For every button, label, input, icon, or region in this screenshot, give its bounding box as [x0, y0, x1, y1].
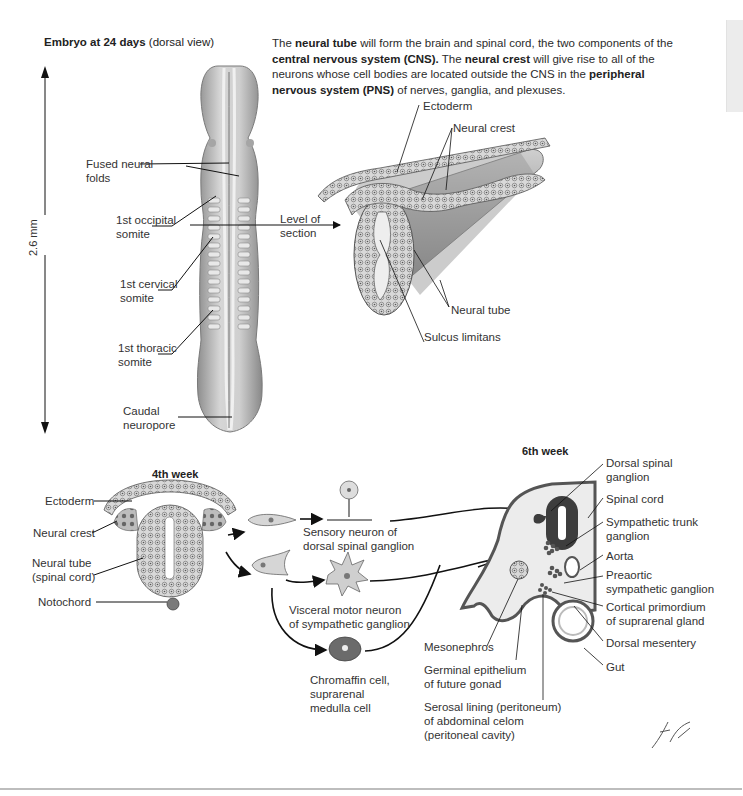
label-dorsal-spinal-ganglion: Dorsal spinalganglion: [606, 456, 672, 484]
label-line: dorsal spinal ganglion: [303, 540, 414, 552]
label-neural-tube-section: Neural tube: [451, 303, 510, 317]
label-aorta: Aorta: [606, 549, 634, 563]
label-line: Cortical primordium: [606, 601, 706, 613]
label-cortical-primordium: Cortical primordiumof suprarenal gland: [606, 600, 706, 628]
label-line: folds: [86, 172, 110, 184]
label-neural-tube-week4: Neural tube(spinal cord): [32, 556, 95, 584]
label-line: of future gonad: [424, 678, 501, 690]
label-line: Caudal: [123, 405, 159, 417]
embryo-dorsal-view: [197, 66, 262, 432]
label-line: of abdominal celom: [424, 715, 524, 727]
label-line: (spinal cord): [32, 571, 95, 583]
week6-title: 6th week: [522, 445, 568, 457]
label-line: ganglion: [606, 471, 649, 483]
label-1st-occipital-somite: 1st occipitalsomite: [116, 213, 176, 241]
label-ectoderm-week4: Ectoderm: [45, 494, 94, 508]
label-mesonephros: Mesonephros: [424, 640, 494, 654]
scale-arrow: [39, 66, 51, 434]
label-serosal-lining: Serosal lining (peritoneum)of abdominal …: [424, 700, 561, 742]
label-visceral-motor-neuron: Visceral motor neuronof sympathetic gang…: [289, 603, 410, 631]
label-line: of sympathetic ganglion: [289, 618, 410, 630]
label-ectoderm-section: Ectoderm: [423, 99, 472, 113]
label-gut: Gut: [606, 660, 625, 674]
artist-signature: [652, 722, 690, 748]
scale-label: 2.6 mm: [27, 219, 39, 256]
label-sensory-neuron: Sensory neuron ofdorsal spinal ganglion: [303, 525, 414, 553]
label-line: (peritoneal cavity): [424, 729, 515, 741]
neural-crest-derivatives: [248, 481, 372, 661]
label-line: Dorsal spinal: [606, 457, 672, 469]
label-line: somite: [120, 292, 154, 304]
label-preaortic-sympathetic-ganglion: Preaorticsympathetic ganglion: [606, 568, 714, 596]
label-line: somite: [116, 228, 150, 240]
label-line: section: [280, 227, 316, 239]
label-line: of suprarenal gland: [606, 615, 704, 627]
label-line: Chromaffin cell,: [310, 674, 390, 686]
label-line: sympathetic ganglion: [606, 583, 714, 595]
neural-tube-section: [318, 138, 550, 315]
label-line: 1st cervical: [120, 278, 178, 290]
label-spinal-cord: Spinal cord: [606, 492, 664, 506]
label-dorsal-mesentery: Dorsal mesentery: [606, 636, 696, 650]
label-fused-neural-folds: Fused neuralfolds: [86, 157, 153, 185]
label-line: Sympathetic trunk: [606, 516, 698, 528]
label-line: 1st occipital: [116, 214, 176, 226]
label-sulcus-limitans: Sulcus limitans: [424, 330, 501, 344]
week4-cross-section: [104, 480, 236, 610]
label-line: Fused neural: [86, 158, 153, 170]
label-sympathetic-trunk-ganglion: Sympathetic trunkganglion: [606, 515, 698, 543]
label-line: Serosal lining (peritoneum): [424, 701, 561, 713]
label-line: medulla cell: [310, 702, 371, 714]
label-caudal-neuropore: Caudalneuropore: [123, 404, 175, 432]
label-line: Neural tube: [32, 557, 91, 569]
label-1st-thoracic-somite: 1st thoracicsomite: [118, 341, 177, 369]
label-neural-crest-section: Neural crest: [453, 121, 515, 135]
label-line: Visceral motor neuron: [289, 604, 401, 616]
label-line: Germinal epithelium: [424, 664, 526, 676]
week4-title: 4th week: [152, 468, 198, 480]
label-line: somite: [118, 356, 152, 368]
label-line: neuropore: [123, 419, 175, 431]
label-line: Preaortic: [606, 569, 652, 581]
label-line: Sensory neuron of: [303, 526, 397, 538]
label-line: ganglion: [606, 530, 649, 542]
label-1st-cervical-somite: 1st cervicalsomite: [120, 277, 178, 305]
label-germinal-epithelium: Germinal epitheliumof future gonad: [424, 663, 526, 691]
label-line: suprarenal: [310, 688, 364, 700]
label-line: 1st thoracic: [118, 342, 177, 354]
bottom-divider: [0, 788, 742, 790]
label-notochord: Notochord: [38, 595, 91, 609]
label-neural-crest-week4: Neural crest: [33, 526, 95, 540]
label-chromaffin-cell: Chromaffin cell,suprarenalmedulla cell: [310, 673, 390, 715]
label-level-of-section: Level ofsection: [280, 212, 320, 240]
label-line: Level of: [280, 213, 320, 225]
